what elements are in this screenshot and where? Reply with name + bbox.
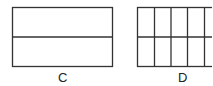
label-d: D [178,70,187,85]
rectangle-c [13,8,113,67]
rectangle-d [138,8,213,67]
label-c: C [58,70,67,85]
